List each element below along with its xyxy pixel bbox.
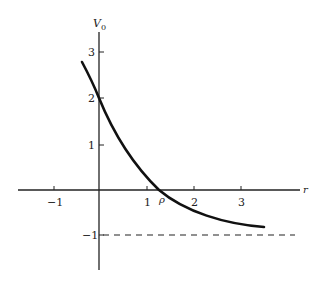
x-axis-label: r — [303, 184, 309, 195]
x-tick-label: 3 — [238, 196, 245, 209]
y-axis-label-subscript: 0 — [101, 23, 106, 32]
chart: V 0 r −1 1 2 3 ρ 3 2 1 −1 — [0, 0, 317, 281]
y-tick-label: −1 — [82, 229, 98, 242]
rho-label: ρ — [158, 194, 165, 205]
y-tick-label: 3 — [88, 46, 95, 59]
potential-curve — [82, 62, 264, 227]
x-tick-label: −1 — [47, 196, 63, 209]
x-tick-label: 1 — [144, 196, 151, 209]
x-tick-label: 2 — [191, 196, 198, 209]
y-tick-label: 1 — [88, 139, 95, 152]
y-tick-label: 2 — [88, 92, 95, 105]
